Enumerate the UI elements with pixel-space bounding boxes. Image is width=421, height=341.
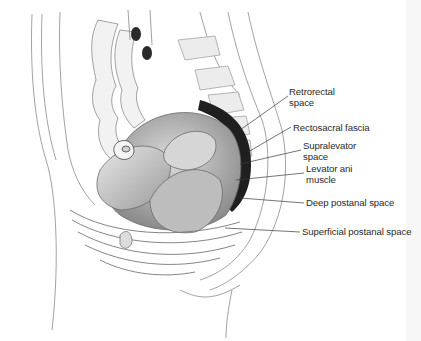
pelvis-anatomy-illustration <box>0 0 421 341</box>
label-rectosacral-fascia: Rectosacral fascia <box>293 122 370 133</box>
cervix-section <box>114 140 134 159</box>
pelvic-organs <box>97 113 241 233</box>
label-retrorectal-space: Retrorectal space <box>289 86 335 108</box>
label-deep-postanal-space: Deep postanal space <box>306 197 394 208</box>
label-superficial-postanal-space: Superficial postanal space <box>302 226 411 237</box>
label-supralevator-space: Supralevator space <box>303 140 356 162</box>
perineal-body <box>120 231 132 248</box>
label-levator-ani-muscle: Levator ani muscle <box>306 163 352 185</box>
